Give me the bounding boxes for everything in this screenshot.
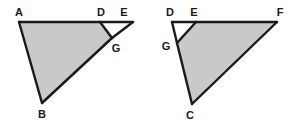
right-shaded-region xyxy=(177,22,277,104)
geometry-figure-canvas: ABDEG DEFGC xyxy=(0,0,296,127)
vertex-label-left-a: A xyxy=(15,6,23,18)
vertex-label-left-b: B xyxy=(38,108,46,120)
diagram-left: ABDEG xyxy=(15,6,133,120)
vertex-label-right-f: F xyxy=(277,6,284,18)
vertex-label-right-g: G xyxy=(162,40,171,52)
vertex-label-right-c: C xyxy=(186,109,194,121)
vertex-label-left-d: D xyxy=(97,6,105,18)
vertex-label-right-d: D xyxy=(166,6,174,18)
diagram-right: DEFGC xyxy=(162,6,284,121)
geometry-figure-svg: ABDEG DEFGC xyxy=(0,0,296,127)
left-shaded-region xyxy=(19,22,112,103)
vertex-label-left-g: G xyxy=(112,42,121,54)
vertex-label-right-e: E xyxy=(190,6,197,18)
vertex-label-left-e: E xyxy=(120,6,127,18)
